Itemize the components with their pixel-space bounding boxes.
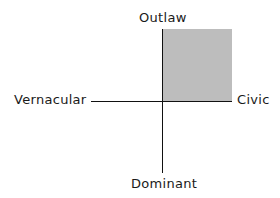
axis-label-top: Outlaw — [139, 11, 187, 25]
axis-label-bottom: Dominant — [131, 177, 197, 191]
highlighted-quadrant-outlaw-civic — [162, 29, 232, 101]
axis-label-right: Civic — [237, 93, 270, 107]
vertical-axis-outlaw-dominant — [162, 29, 164, 173]
axis-label-left: Vernacular — [14, 93, 87, 107]
quadrant-diagram: Outlaw Vernacular Civic Dominant — [0, 0, 280, 198]
